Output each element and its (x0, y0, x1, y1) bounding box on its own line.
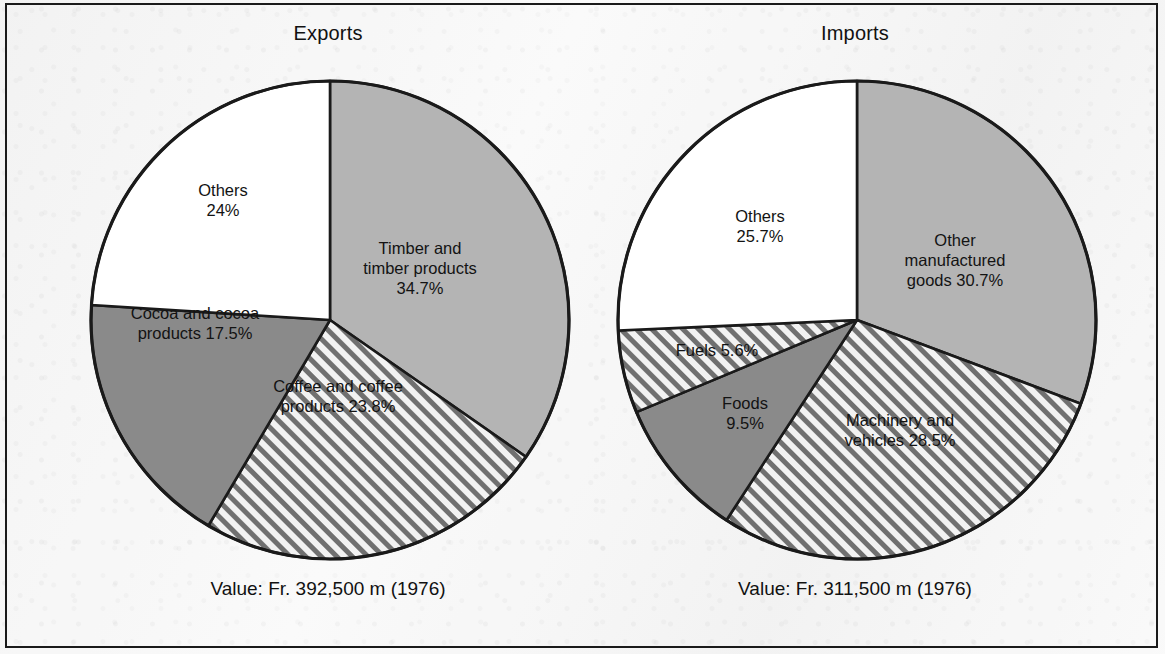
figure-root: Exports Timber and timber products 34.7%… (0, 0, 1165, 654)
pie-exports-slices (91, 81, 569, 559)
pie-exports: Timber and timber products 34.7%Coffee a… (88, 78, 572, 562)
pie-imports-slices (618, 81, 1096, 559)
chart-title-exports: Exports (68, 22, 588, 45)
chart-title-imports: Imports (595, 22, 1115, 45)
chart-caption-exports: Value: Fr. 392,500 m (1976) (68, 578, 588, 600)
chart-caption-imports: Value: Fr. 311,500 m (1976) (595, 578, 1115, 600)
chart-imports: Imports Other manufactured goods 30.7%Ma… (595, 0, 1115, 654)
chart-exports: Exports Timber and timber products 34.7%… (68, 0, 588, 654)
pie-imports: Other manufactured goods 30.7%Machinery … (615, 78, 1099, 562)
pie-imports-svg (615, 78, 1099, 562)
pie-slice (618, 81, 857, 331)
pie-exports-svg (88, 78, 572, 562)
pie-slice (91, 81, 330, 320)
